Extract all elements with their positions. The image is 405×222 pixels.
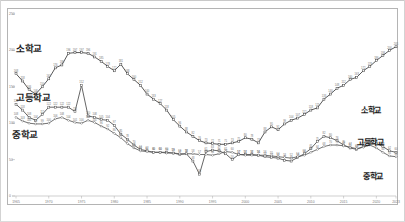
svg-text:186: 186 bbox=[374, 56, 379, 60]
svg-text:85: 85 bbox=[119, 129, 122, 133]
svg-text:105: 105 bbox=[99, 115, 104, 119]
svg-text:60: 60 bbox=[381, 147, 384, 151]
svg-text:75: 75 bbox=[237, 137, 240, 141]
svg-text:133: 133 bbox=[322, 94, 327, 98]
svg-text:69: 69 bbox=[342, 141, 345, 145]
svg-text:56: 56 bbox=[257, 150, 260, 154]
svg-text:60: 60 bbox=[309, 147, 312, 151]
svg-text:95: 95 bbox=[270, 122, 273, 126]
svg-text:57: 57 bbox=[237, 150, 240, 154]
svg-text:54: 54 bbox=[395, 152, 398, 156]
svg-text:112: 112 bbox=[302, 110, 307, 114]
svg-text:82: 82 bbox=[322, 131, 325, 135]
svg-text:172: 172 bbox=[112, 66, 117, 70]
svg-text:58: 58 bbox=[178, 149, 181, 153]
svg-text:152: 152 bbox=[79, 80, 84, 84]
svg-text:168: 168 bbox=[14, 69, 19, 73]
svg-text:104: 104 bbox=[289, 115, 294, 119]
svg-text:76: 76 bbox=[336, 136, 339, 140]
series-label-left-1: 소학교 bbox=[16, 41, 42, 55]
svg-text:107: 107 bbox=[296, 113, 301, 117]
svg-text:96: 96 bbox=[100, 121, 103, 125]
svg-text:99: 99 bbox=[41, 119, 44, 123]
svg-text:72: 72 bbox=[211, 139, 214, 143]
svg-text:99: 99 bbox=[34, 119, 37, 123]
svg-text:100: 100 bbox=[79, 118, 84, 122]
series-label-right-2: 고등학교 bbox=[357, 136, 384, 147]
svg-text:78: 78 bbox=[250, 134, 253, 138]
svg-text:60: 60 bbox=[152, 147, 155, 151]
svg-text:80: 80 bbox=[329, 133, 332, 137]
y-axis-tick: 50 bbox=[9, 158, 13, 162]
svg-text:193: 193 bbox=[381, 51, 386, 55]
svg-text:70: 70 bbox=[329, 140, 332, 144]
svg-text:82: 82 bbox=[191, 131, 194, 135]
x-axis-tick: 1965 bbox=[12, 200, 20, 204]
svg-text:58: 58 bbox=[191, 149, 194, 153]
svg-text:53: 53 bbox=[283, 153, 286, 157]
series-label-right-1: 소학교 bbox=[361, 104, 381, 115]
svg-text:106: 106 bbox=[53, 114, 58, 118]
x-axis-tick: 1985 bbox=[143, 200, 151, 204]
svg-text:60: 60 bbox=[395, 147, 398, 151]
y-axis-tick: 100 bbox=[9, 121, 15, 125]
svg-text:196: 196 bbox=[66, 48, 71, 52]
svg-text:100: 100 bbox=[47, 118, 52, 122]
x-axis-tick: 2023 bbox=[392, 200, 400, 204]
svg-text:146: 146 bbox=[27, 85, 32, 89]
svg-text:122: 122 bbox=[60, 102, 65, 106]
svg-text:178: 178 bbox=[106, 62, 111, 66]
svg-text:58: 58 bbox=[218, 149, 221, 153]
svg-text:71: 71 bbox=[224, 139, 227, 143]
svg-text:105: 105 bbox=[171, 115, 176, 119]
svg-text:78: 78 bbox=[126, 134, 129, 138]
svg-text:197: 197 bbox=[79, 48, 84, 52]
svg-text:97: 97 bbox=[113, 120, 116, 124]
svg-text:163: 163 bbox=[355, 72, 360, 76]
svg-text:86: 86 bbox=[113, 128, 116, 132]
svg-text:152: 152 bbox=[341, 80, 346, 84]
svg-text:68: 68 bbox=[322, 142, 325, 146]
svg-text:180: 180 bbox=[60, 60, 65, 64]
svg-text:122: 122 bbox=[53, 102, 58, 106]
svg-text:56: 56 bbox=[264, 150, 267, 154]
svg-text:158: 158 bbox=[20, 76, 25, 80]
svg-text:60: 60 bbox=[231, 147, 234, 151]
svg-text:116: 116 bbox=[73, 107, 78, 111]
x-axis-tick: 1980 bbox=[110, 200, 118, 204]
svg-text:73: 73 bbox=[205, 138, 208, 142]
svg-text:61: 61 bbox=[146, 147, 149, 151]
svg-text:56: 56 bbox=[211, 150, 214, 154]
svg-text:88: 88 bbox=[185, 127, 188, 131]
svg-text:108: 108 bbox=[92, 112, 97, 116]
svg-text:197: 197 bbox=[73, 48, 78, 52]
svg-text:56: 56 bbox=[244, 150, 247, 154]
svg-text:92: 92 bbox=[106, 124, 109, 128]
svg-text:140: 140 bbox=[145, 89, 150, 93]
y-axis-tick: 150 bbox=[9, 85, 15, 89]
svg-text:161: 161 bbox=[47, 74, 52, 78]
svg-text:54: 54 bbox=[296, 152, 299, 156]
svg-text:205: 205 bbox=[394, 42, 399, 46]
svg-text:58: 58 bbox=[185, 149, 188, 153]
svg-text:96: 96 bbox=[178, 121, 181, 125]
svg-text:63: 63 bbox=[211, 145, 214, 149]
svg-text:118: 118 bbox=[165, 105, 170, 109]
svg-text:108: 108 bbox=[60, 112, 65, 116]
svg-text:48: 48 bbox=[191, 156, 194, 160]
svg-text:104: 104 bbox=[106, 115, 111, 119]
svg-text:57: 57 bbox=[198, 150, 201, 154]
svg-text:80: 80 bbox=[244, 133, 247, 137]
svg-text:178: 178 bbox=[368, 62, 373, 66]
x-axis-tick: 2020 bbox=[373, 200, 381, 204]
svg-text:150: 150 bbox=[40, 82, 45, 86]
x-axis-tick: 1970 bbox=[45, 200, 53, 204]
chart-container: 1681581461401501611761801961971971961911… bbox=[0, 0, 405, 222]
svg-text:108: 108 bbox=[14, 112, 19, 116]
svg-text:54: 54 bbox=[277, 152, 280, 156]
series-label-left-3: 중학교 bbox=[12, 127, 38, 141]
svg-text:55: 55 bbox=[270, 151, 273, 155]
svg-text:100: 100 bbox=[27, 118, 32, 122]
svg-text:160: 160 bbox=[348, 75, 353, 79]
svg-text:67: 67 bbox=[349, 142, 352, 146]
